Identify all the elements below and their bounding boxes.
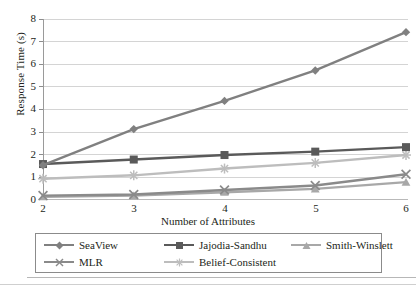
legend-item-belief-consistent[interactable]: Belief-Consistent	[164, 256, 276, 268]
legend-label-belief-consistent: Belief-Consistent	[199, 256, 276, 268]
figure-divider-bottom	[0, 284, 416, 285]
plot-area: Response Time (s) 8 7 6 5 4 3 2 1 0 2 3	[0, 0, 416, 215]
diamond-marker-icon	[44, 239, 74, 251]
x-axis-title: Number of Attributes	[0, 215, 416, 227]
asterisk-marker-icon	[164, 256, 194, 268]
figure-container: Response Time (s) 8 7 6 5 4 3 2 1 0 2 3	[0, 0, 416, 288]
legend-label-smith-winslett: Smith-Winslett	[326, 239, 393, 251]
legend-label-mlr: MLR	[79, 256, 103, 268]
figure-divider-top	[27, 277, 416, 278]
triangle-marker-icon	[291, 239, 321, 251]
legend-item-seaview[interactable]: SeaView	[44, 239, 118, 251]
legend-item-jajodia-sandhu[interactable]: Jajodia-Sandhu	[164, 239, 267, 251]
legend: SeaView Jajodia-Sandhu Smith-Winslett	[35, 233, 382, 273]
legend-item-smith-winslett[interactable]: Smith-Winslett	[291, 239, 393, 251]
legend-label-jajodia-sandhu: Jajodia-Sandhu	[199, 239, 267, 251]
x-marker-icon	[44, 256, 74, 268]
square-marker-icon	[164, 239, 194, 251]
data-series-layer	[0, 0, 416, 215]
series-seaview	[39, 28, 410, 169]
legend-item-mlr[interactable]: MLR	[44, 256, 103, 268]
legend-label-seaview: SeaView	[79, 239, 118, 251]
